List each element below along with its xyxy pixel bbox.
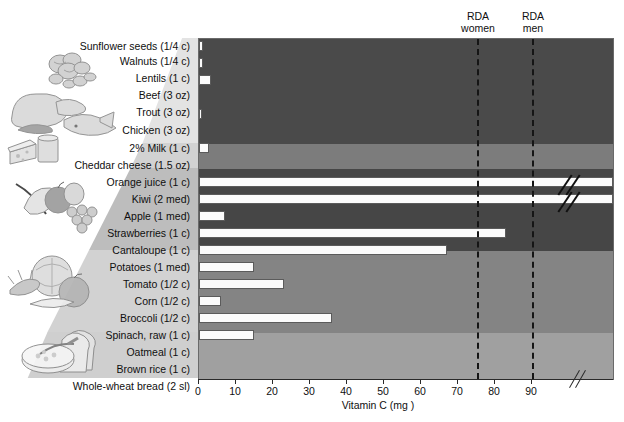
- rda-men-line1: RDA: [501, 10, 565, 22]
- bar-strawberries: [199, 228, 506, 238]
- bar-potatoes: [199, 262, 254, 272]
- rda-men-line2: men: [501, 22, 565, 34]
- rda-men-label: RDA men: [501, 10, 565, 34]
- x-tick-label-10: 10: [220, 385, 250, 397]
- x-tick-label-90: 90: [516, 385, 546, 397]
- x-axis-line: [198, 379, 613, 380]
- bar-cantaloupe: [199, 245, 447, 255]
- x-tick-label-0: 0: [183, 385, 213, 397]
- band-dairy: [199, 144, 613, 169]
- bar-kiwi: [199, 194, 613, 204]
- x-tick-label-70: 70: [442, 385, 472, 397]
- x-axis-label: Vitamin C (mg ): [198, 399, 558, 411]
- bar-tomato: [199, 279, 284, 289]
- band-grains: [199, 333, 613, 379]
- x-tick-50: [383, 379, 384, 384]
- rda-men-line: [532, 39, 534, 379]
- category-label-lentils: Lentils (1 c): [136, 73, 190, 84]
- bar-lentils: [199, 75, 211, 85]
- category-label-kiwi: Kiwi (2 med): [132, 194, 190, 205]
- bar-trout: [199, 109, 202, 119]
- category-label-cheddar-cheese: Cheddar cheese (1.5 oz): [74, 160, 190, 171]
- x-tick-20: [272, 379, 273, 384]
- category-label-beef: Beef (3 oz): [139, 90, 190, 101]
- bar-corn: [199, 296, 221, 306]
- category-label-spinach: Spinach, raw (1 c): [105, 330, 190, 341]
- bar-orange-juice: [199, 177, 613, 187]
- category-label-oatmeal: Oatmeal (1 c): [126, 347, 190, 358]
- band-protein-foods: [199, 39, 613, 144]
- bar-sunflower-seeds: [199, 41, 203, 51]
- category-label-milk: 2% Milk (1 c): [129, 143, 190, 154]
- category-label-strawberries: Strawberries (1 c): [107, 228, 190, 239]
- x-tick-label-80: 80: [479, 385, 509, 397]
- x-tick-label-40: 40: [331, 385, 361, 397]
- category-label-broccoli: Broccoli (1/2 c): [120, 313, 190, 324]
- x-tick-0: [198, 379, 199, 384]
- category-label-corn: Corn (1/2 c): [135, 296, 190, 307]
- x-tick-label-20: 20: [257, 385, 287, 397]
- x-tick-label-30: 30: [294, 385, 324, 397]
- plot-area: [198, 38, 614, 380]
- category-label-chicken: Chicken (3 oz): [122, 125, 190, 136]
- x-tick-30: [309, 379, 310, 384]
- bar-walnuts: [199, 58, 203, 68]
- category-label-whole-wheat-bread: Whole-wheat bread (2 sl): [73, 381, 190, 392]
- vitamin-c-chart: Sunflower seeds (1/4 c) Walnuts (1/4 c) …: [0, 0, 624, 422]
- x-tick-90: [531, 379, 532, 384]
- category-label-apple: Apple (1 med): [124, 211, 190, 222]
- category-label-tomato: Tomato (1/2 c): [123, 279, 190, 290]
- bar-spinach: [199, 330, 254, 340]
- category-labels: Sunflower seeds (1/4 c) Walnuts (1/4 c) …: [0, 38, 196, 378]
- category-label-orange-juice: Orange juice (1 c): [107, 177, 190, 188]
- x-axis-break-mark: [568, 371, 592, 387]
- category-label-cantaloupe: Cantaloupe (1 c): [112, 245, 190, 256]
- x-tick-80: [494, 379, 495, 384]
- x-tick-70: [457, 379, 458, 384]
- x-tick-60: [420, 379, 421, 384]
- x-tick-40: [346, 379, 347, 384]
- x-tick-10: [235, 379, 236, 384]
- rda-women-line: [477, 39, 479, 379]
- x-tick-label-60: 60: [405, 385, 435, 397]
- category-label-walnuts: Walnuts (1/4 c): [120, 56, 190, 67]
- category-label-brown-rice: Brown rice (1 c): [116, 364, 190, 375]
- x-tick-label-50: 50: [368, 385, 398, 397]
- category-label-potatoes: Potatoes (1 med): [109, 262, 190, 273]
- category-label-trout: Trout (3 oz): [136, 107, 190, 118]
- bar-milk: [199, 143, 209, 153]
- bar-broccoli: [199, 313, 332, 323]
- bar-apple: [199, 211, 225, 221]
- category-label-sunflower-seeds: Sunflower seeds (1/4 c): [80, 41, 190, 52]
